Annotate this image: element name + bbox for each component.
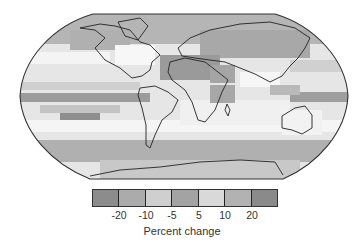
legend-swatch (199, 190, 225, 206)
legend-title: Percent change (0, 225, 364, 237)
legend-tick: -10 (138, 209, 153, 221)
legend-tick: -5 (167, 209, 176, 221)
legend-tick: 10 (219, 209, 231, 221)
legend-swatch (146, 190, 172, 206)
legend-swatch (225, 190, 251, 206)
legend-tick: 20 (246, 209, 258, 221)
color-legend (92, 189, 278, 207)
world-map (0, 0, 364, 185)
legend-swatch (252, 190, 277, 206)
legend-tick: -20 (111, 209, 126, 221)
legend-swatch (93, 190, 119, 206)
legend-swatch (172, 190, 198, 206)
legend-swatch (119, 190, 145, 206)
legend-tick: 5 (196, 209, 202, 221)
precipitation-field (0, 0, 364, 185)
